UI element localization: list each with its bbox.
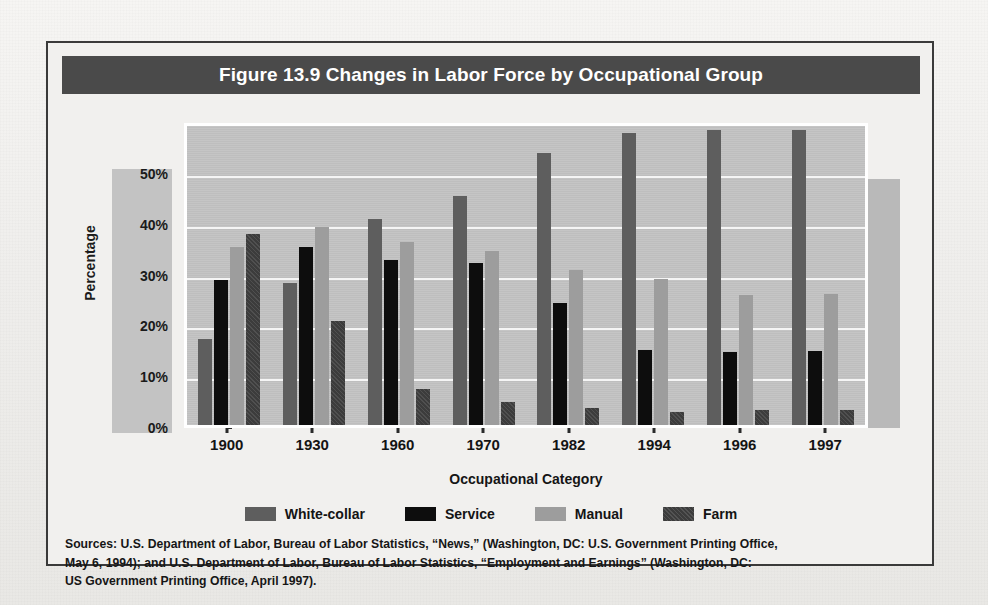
x-tick-label-1900: 1900 [184,436,270,462]
y-tick-label: 40% [140,217,168,233]
x-tick-mark [396,428,399,433]
bar-manual-1982[interactable] [569,270,583,425]
legend-swatch-icon [245,507,276,521]
bar-manual-1930[interactable] [315,227,329,425]
bar-farm-1996[interactable] [755,410,769,425]
bar-farm-1970[interactable] [501,402,515,425]
sources-note: Sources: U.S. Department of Labor, Burea… [65,535,919,591]
bar-white-collar-1996[interactable] [707,130,721,425]
bar-farm-1982[interactable] [585,408,599,425]
bar-service-1970[interactable] [469,263,483,425]
legend-item-white-collar[interactable]: White-collar [245,506,365,522]
legend-item-farm[interactable]: Farm [663,506,737,522]
bar-service-1900[interactable] [214,280,228,425]
y-tick-label: 20% [140,318,168,334]
bar-group [780,126,865,425]
bar-white-collar-1930[interactable] [283,283,297,425]
x-tick-mark [482,428,485,433]
bar-service-1997[interactable] [808,351,822,425]
bar-manual-1960[interactable] [400,242,414,425]
bar-group [357,126,442,425]
x-tick-label-1982: 1982 [526,436,612,462]
legend-label: Farm [703,506,737,522]
bar-service-1930[interactable] [299,247,313,425]
x-tick-label-1996: 1996 [697,436,783,462]
bar-white-collar-1960[interactable] [368,219,382,425]
legend-swatch-icon [535,507,566,521]
bar-group [696,126,781,425]
x-axis-title: Occupational Category [184,471,868,487]
bar-manual-1970[interactable] [485,251,499,425]
bar-manual-1994[interactable] [654,279,668,425]
x-tick-mark [311,428,314,433]
bar-farm-1930[interactable] [331,321,345,425]
x-tick-mark [653,428,656,433]
legend-item-service[interactable]: Service [405,506,495,522]
bar-group [272,126,357,425]
x-tick-label-1970: 1970 [441,436,527,462]
sources-line-2: May 6, 1994); and U.S. Department of Lab… [65,554,919,573]
x-tick-label-1994: 1994 [612,436,698,462]
chart-region: Percentage 0%10%20%30%40%50% 19001930196… [62,105,920,505]
bar-manual-1900[interactable] [230,247,244,425]
bar-service-1982[interactable] [553,303,567,425]
y-tick-label: 10% [140,369,168,385]
bar-farm-1960[interactable] [416,389,430,425]
y-tick-label: 0% [148,420,168,436]
legend-swatch-icon [405,507,436,521]
legend-item-manual[interactable]: Manual [535,506,623,522]
figure-title-bar: Figure 13.9 Changes in Labor Force by Oc… [62,56,920,94]
x-tick-mark [225,428,228,433]
x-tick-mark [567,428,570,433]
y-axis-ticks: 0%10%20%30%40%50% [110,165,172,433]
figure-frame: Figure 13.9 Changes in Labor Force by Oc… [46,41,934,566]
x-tick-mark [738,428,741,433]
bar-white-collar-1982[interactable] [537,153,551,425]
bar-service-1960[interactable] [384,260,398,425]
chart-legend: White-collarServiceManualFarm [62,501,920,527]
bar-service-1996[interactable] [723,352,737,425]
decorative-gray-band [868,179,900,428]
plot-area [184,123,868,428]
y-tick-label: 30% [140,268,168,284]
bar-group [441,126,526,425]
bar-white-collar-1994[interactable] [622,133,636,425]
legend-label: Service [445,506,495,522]
bar-farm-1900[interactable] [246,234,260,425]
y-tick-label: 50% [140,166,168,182]
bar-groups [187,126,865,425]
bar-white-collar-1970[interactable] [453,196,467,425]
bar-service-1994[interactable] [638,350,652,425]
bar-manual-1996[interactable] [739,295,753,425]
bar-group [187,126,272,425]
sources-line-1: Sources: U.S. Department of Labor, Burea… [65,535,919,554]
x-tick-mark [824,428,827,433]
x-tick-label-1930: 1930 [270,436,356,462]
bar-group [526,126,611,425]
legend-label: White-collar [285,506,365,522]
bar-white-collar-1900[interactable] [198,339,212,425]
y-axis-title: Percentage [82,183,98,343]
bar-manual-1997[interactable] [824,294,838,425]
x-tick-label-1997: 1997 [783,436,869,462]
sources-line-3: US Government Printing Office, April 199… [65,572,919,591]
figure-title: Figure 13.9 Changes in Labor Force by Oc… [219,64,763,86]
bar-farm-1997[interactable] [840,410,854,425]
x-tick-label-1960: 1960 [355,436,441,462]
bar-white-collar-1997[interactable] [792,130,806,425]
bar-group [611,126,696,425]
x-axis-labels: 19001930196019701982199419961997 [184,436,868,462]
legend-label: Manual [575,506,623,522]
bar-farm-1994[interactable] [670,412,684,425]
legend-swatch-icon [663,507,694,521]
